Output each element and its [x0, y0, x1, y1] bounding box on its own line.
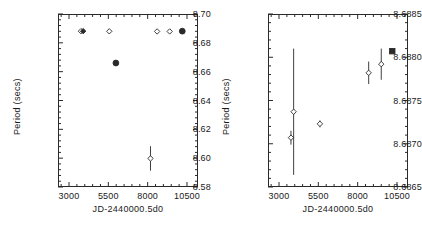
y-axis-title-right: Period (secs)	[221, 78, 231, 135]
y-tick-label: 8.64	[157, 96, 211, 106]
y-tick-label: 8.62	[157, 124, 211, 134]
y-axis-title-left: Period (secs)	[12, 78, 22, 135]
x-tick-label: 5500	[308, 191, 329, 201]
data-point	[366, 62, 371, 84]
chart-panel-right: 8.68658.68708.68758.68808.6885 300055008…	[211, 0, 422, 231]
chart-panel-left: 8.588.608.628.648.668.688.70 30005500800…	[0, 0, 211, 231]
x-tick-label: 3000	[59, 191, 80, 201]
y-tick-label: 8.6870	[369, 139, 422, 149]
x-axis-title-left: JD-2440000.5d0	[93, 204, 164, 214]
x-tick-label: 5500	[98, 191, 119, 201]
data-point	[148, 146, 153, 171]
y-tick-label: 8.70	[157, 9, 211, 19]
x-tick-label: 10500	[174, 191, 200, 201]
x-tick-label: 10500	[384, 191, 410, 201]
y-tick-label: 8.6880	[369, 52, 422, 62]
y-tick-label: 8.60	[157, 153, 211, 163]
x-tick-label: 8000	[347, 191, 368, 201]
x-tick-label: 8000	[137, 191, 158, 201]
x-tick-label: 3000	[269, 191, 290, 201]
data-point	[167, 29, 172, 34]
y-tick-label: 8.66	[157, 67, 211, 77]
data-point	[291, 49, 296, 175]
y-tick-label: 8.68	[157, 38, 211, 48]
y-tick-label: 8.6875	[369, 96, 422, 106]
data-point	[179, 28, 185, 34]
y-tick-label: 8.6885	[369, 9, 422, 19]
data-point	[154, 29, 159, 34]
data-point	[288, 131, 293, 145]
x-axis-title-right: JD-2440000.5d0	[303, 204, 374, 214]
data-point	[113, 60, 119, 66]
data-point	[317, 120, 322, 127]
data-point	[107, 29, 112, 34]
